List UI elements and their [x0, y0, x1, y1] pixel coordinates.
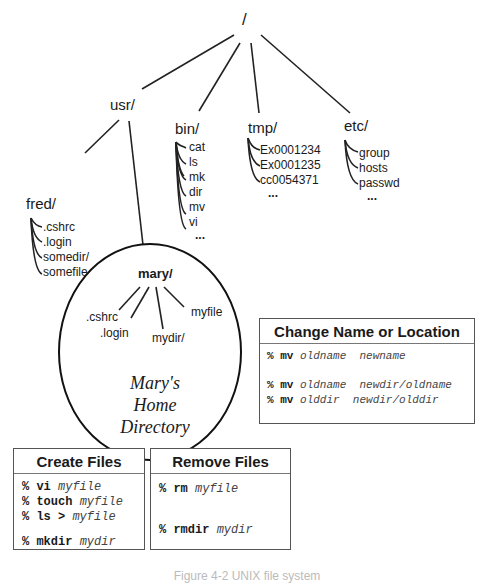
bin-more: ... [189, 230, 205, 240]
command-line: % mv oldname newdir/oldname [267, 378, 470, 393]
bin-file: ls [189, 155, 205, 170]
mary-dir-mydir: mydir/ [152, 331, 185, 345]
etc-file: hosts [359, 161, 400, 176]
etc-file: passwd [359, 176, 400, 191]
bin-children: cat ls mk dir mv vi ... [189, 140, 205, 240]
command-line: % mv oldname newname [267, 349, 470, 364]
fred-file: somefile [43, 265, 89, 280]
command-line: % ls > myfile [22, 510, 136, 525]
root-dir: / [242, 10, 247, 30]
remove-files-title: Remove Files [151, 449, 290, 474]
mary-home-label-line: Directory [110, 416, 200, 438]
command-line: % touch myfile [22, 495, 136, 510]
command-line: % vi myfile [22, 480, 136, 495]
command-line: % mv olddir newdir/olddir [267, 393, 470, 408]
fred-file: .cshrc [43, 220, 89, 235]
mary-file-myfile: myfile [191, 305, 222, 319]
etc-more: ... [359, 191, 400, 201]
fred-file: .login [43, 235, 89, 250]
mary-home-label-line: Mary's [110, 372, 200, 394]
tmp-file: Ex0001235 [260, 158, 321, 173]
dir-bin: bin/ [175, 120, 199, 137]
tmp-file: Ex0001234 [260, 143, 321, 158]
mary-home-label-line: Home [110, 394, 200, 416]
command-line: % mkdir mydir [22, 535, 136, 550]
change-name-box: Change Name or Location % mv oldname new… [259, 318, 475, 424]
command-line: % rm myfile [159, 482, 282, 497]
bin-file: mv [189, 200, 205, 215]
tmp-children: Ex0001234 Ex0001235 cc0054371 ... [260, 143, 321, 198]
bin-file: mk [189, 170, 205, 185]
command-line: % rmdir mydir [159, 523, 282, 538]
mary-home-label: Mary's Home Directory [110, 372, 200, 438]
bin-file: cat [189, 140, 205, 155]
bin-file: dir [189, 185, 205, 200]
create-files-box: Create Files % vi myfile % touch myfile … [13, 448, 145, 550]
fred-file: somedir/ [43, 250, 89, 265]
figure-caption: Figure 4-2 UNIX file system [0, 569, 494, 583]
tmp-more: ... [260, 188, 321, 198]
etc-file: group [359, 146, 400, 161]
dir-fred: fred/ [26, 195, 56, 212]
fred-children: .cshrc .login somedir/ somefile [43, 220, 89, 280]
dir-tmp: tmp/ [248, 119, 277, 136]
create-files-title: Create Files [14, 449, 144, 474]
remove-files-box: Remove Files % rm myfile % rmdir mydir [150, 448, 291, 550]
etc-children: group hosts passwd ... [359, 146, 400, 201]
mary-file-login: .login [100, 326, 129, 340]
dir-etc: etc/ [344, 117, 368, 134]
dir-usr: usr/ [110, 96, 135, 113]
mary-file-cshrc: .cshrc [86, 310, 118, 324]
dir-mary: mary/ [138, 266, 173, 281]
change-name-title: Change Name or Location [260, 319, 474, 344]
